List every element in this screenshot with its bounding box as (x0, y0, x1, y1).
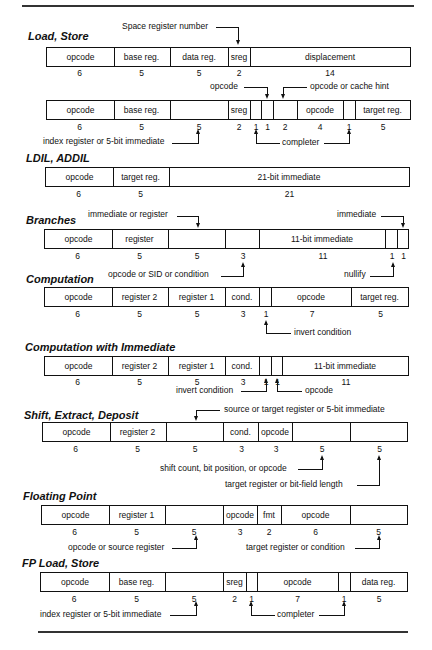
leader-line (381, 216, 404, 217)
leader-line (256, 143, 280, 144)
field-register-2: register 2 (111, 287, 169, 307)
field-base-reg: base reg. (108, 572, 166, 592)
bit-width: 6 (41, 527, 108, 537)
field-data-reg: data reg. (170, 47, 229, 67)
annotation-opcode-or-source-register: opcode or source register (68, 542, 164, 552)
field-data-reg: data reg. (350, 572, 408, 592)
section-title-shift-extract-deposit: Shift, Extract, Deposit (24, 409, 138, 421)
bit-width: 3 (223, 527, 257, 537)
bit-width: 3 (224, 444, 259, 454)
field-shift-count (292, 422, 351, 442)
annotation-invert-condition: invert condition (176, 385, 233, 395)
field-cache-hint (273, 100, 298, 120)
annotation-completer: completer (282, 137, 319, 147)
format-computation-immediate: opcode register 2 register 1 cond. 11-bi… (44, 356, 409, 376)
bit-width: 2 (257, 527, 281, 537)
leader-line (319, 615, 344, 616)
field-opcode: opcode (44, 229, 113, 249)
bit-width: 2 (228, 122, 250, 132)
bit-width: 6 (44, 309, 111, 319)
arrow-up-icon (275, 378, 279, 383)
bit-width: 1 (262, 122, 273, 132)
bit-width: 3 (226, 251, 260, 261)
annotation-source-or-target: source or target register or 5-bit immed… (224, 404, 385, 414)
field-opcode: opcode (281, 505, 351, 525)
field-opcode: opcode (223, 505, 258, 525)
field-sreg: sreg (228, 100, 251, 120)
bit-width: 11 (283, 377, 409, 387)
field-cond: cond. (225, 287, 260, 307)
arrow-up-icon (320, 455, 324, 460)
field-immediate-or-register (168, 229, 226, 249)
bottom-rule (38, 631, 408, 633)
arrow-down-icon (236, 40, 240, 45)
bit-width: 5 (113, 122, 170, 132)
annotation-nullify: nullify (344, 269, 366, 279)
bit-width: 5 (111, 309, 168, 319)
bit-width: 11 (260, 251, 386, 261)
bit-width: 5 (109, 444, 166, 454)
field-opcode: opcode (41, 505, 110, 525)
field-base-reg: base reg. (113, 47, 171, 67)
bit-width: 2 (273, 122, 297, 132)
bit-width: 6 (44, 377, 111, 387)
arrow-up-icon (241, 262, 245, 267)
field-opcode: opcode (44, 287, 113, 307)
bit-width: 5 (111, 377, 168, 387)
field-opcode: opcode (271, 287, 352, 307)
annotation-index-register: index register or 5-bit immediate (40, 609, 161, 619)
bit-width: 1 (398, 251, 409, 261)
bit-width: 5 (355, 122, 411, 132)
section-title-ldil-addil: LDIL, ADDIL (26, 152, 90, 164)
field-21bit-immediate: 21-bit immediate (169, 167, 410, 187)
arrow-down-icon (401, 223, 405, 228)
leader-line (241, 391, 266, 392)
bit-width: 5 (113, 68, 170, 78)
field-cond: cond. (225, 356, 260, 376)
section-title-floating-point: Floating Point (23, 490, 96, 502)
annotation-target-register-or-condition: target register or condition (246, 542, 345, 552)
field-register-1: register 1 (168, 287, 226, 307)
arrow-up-icon (249, 601, 253, 606)
section-title-computation: Computation (26, 273, 94, 285)
field-source-or-target (166, 422, 224, 442)
field-immediate-bit (397, 229, 409, 249)
bit-width: 6 (44, 251, 111, 261)
bit-width: 3 (259, 444, 293, 454)
leader-line (172, 548, 196, 549)
leader-line (357, 485, 379, 486)
arrow-down-icon (281, 94, 285, 99)
arrow-up-icon (391, 262, 395, 267)
field-opcode: opcode (46, 100, 115, 120)
top-rule (22, 5, 414, 7)
leader-line (370, 276, 393, 277)
bit-width: 6 (281, 527, 350, 537)
leader-line (221, 276, 243, 277)
bit-width: 5 (293, 444, 351, 454)
field-opcode-sid-condition (225, 229, 260, 249)
bit-width: 1 (386, 251, 398, 261)
bit-width: 2 (228, 68, 250, 78)
arrow-up-icon (377, 455, 381, 460)
field-target-or-condition (350, 505, 408, 525)
leader-line (324, 143, 349, 144)
arrow-down-icon (265, 94, 269, 99)
format-floating-point: opcode register 1 opcode fmt opcode (41, 505, 408, 525)
leader-line (266, 333, 291, 334)
annotation-immediate-or-register: immediate or register (88, 209, 168, 219)
bit-width: 5 (170, 68, 228, 78)
field-sreg: sreg (228, 47, 251, 67)
leader-line (298, 469, 322, 470)
format-fp-load-store: opcode base reg. sreg opcode data reg. (40, 572, 408, 592)
field-fmt: fmt (257, 505, 282, 525)
field-opcode: opcode (44, 356, 113, 376)
bit-width: 4 (297, 122, 343, 132)
field-opcode: opcode (42, 422, 111, 442)
field-opcode: opcode (297, 100, 344, 120)
annotation-opcode: opcode (305, 385, 333, 395)
leader-line (238, 27, 239, 41)
field-displacement: displacement (250, 47, 411, 67)
format-computation: opcode register 2 register 1 cond. opcod… (44, 287, 409, 307)
section-title-branches: Branches (26, 214, 76, 226)
annotation-target-or-bitfield: target register or bit-field length (225, 479, 343, 489)
